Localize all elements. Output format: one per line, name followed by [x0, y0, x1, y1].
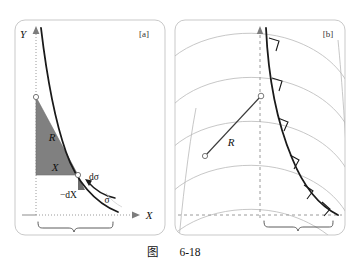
triangle-upper-label: R — [48, 131, 56, 143]
figure-svg: Y X R X dσ −dX σ R [a] — [0, 0, 360, 268]
caption-number: 6-18 — [179, 246, 200, 258]
triangle-lower-label: X — [51, 161, 60, 173]
panel-a-tag: [a] — [139, 29, 149, 39]
panel-a-x-axis-label: X — [145, 209, 154, 221]
panel-b-radius-label: R — [227, 136, 235, 148]
panel-a-brace-label: R — [71, 233, 79, 245]
figure-container: Y X R X dσ −dX σ R [a] — [0, 0, 360, 268]
panel-b-tag: [b] — [323, 29, 334, 39]
d-sigma-label: dσ — [89, 172, 99, 182]
sigma-label: σ — [104, 195, 109, 205]
caption-cjk-label: 图 — [147, 245, 158, 259]
triangle-corner-node — [75, 172, 80, 177]
radius-curve-node — [258, 93, 264, 99]
radius-center-node — [202, 153, 207, 158]
minus-dx-label: −dX — [60, 190, 77, 200]
triangle-top-node — [33, 94, 38, 99]
panel-b-brace-label: R — [295, 232, 303, 244]
